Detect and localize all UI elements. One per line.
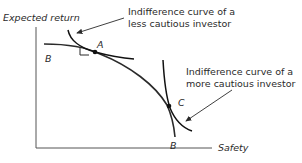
arrow-more-cautious xyxy=(186,90,232,121)
annotation-less-cautious-line2: less cautious investor xyxy=(128,18,231,29)
y-axis-label: Expected return xyxy=(3,12,80,23)
point-a-marker xyxy=(93,50,98,55)
tradeoff-curve-bb xyxy=(44,44,175,137)
curve-label-b-end: B xyxy=(170,140,177,151)
point-a-label: A xyxy=(97,39,104,50)
arrow-less-cautious xyxy=(77,18,124,33)
point-c-marker xyxy=(167,104,172,109)
annotation-more-cautious-line2: more cautious investor xyxy=(186,78,295,89)
annotation-less-cautious-line1: Indifference curve of a xyxy=(128,6,235,17)
tradeoff-diagram: Expected return Safety B B A C Indiffere… xyxy=(0,0,302,163)
curve-label-b-start: B xyxy=(45,53,52,64)
x-axis-label: Safety xyxy=(218,142,248,153)
annotation-more-cautious-line1: Indifference curve of a xyxy=(186,66,293,77)
point-c-label: C xyxy=(178,97,185,108)
